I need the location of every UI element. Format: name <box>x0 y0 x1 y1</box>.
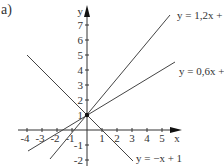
y-axis-label: y <box>78 5 84 17</box>
y-axis-arrow-icon <box>84 5 90 17</box>
x-tick-label: -2 <box>50 132 59 144</box>
y-tick-label: -1 <box>74 139 83 151</box>
x-tick-label: 1 <box>99 132 105 144</box>
line-label-minus-x: y = −x + 1 <box>136 152 182 164</box>
y-tick-label: 5 <box>78 49 84 61</box>
y-tick-label: 4 <box>78 64 84 76</box>
y-tick-label: 7 <box>78 19 84 31</box>
y-tick-label: 2 <box>78 94 84 106</box>
x-tick-label: 4 <box>144 132 150 144</box>
panel-label: a) <box>1 2 12 18</box>
y-tick-label: 3 <box>78 79 84 91</box>
y-tick-label: 6 <box>78 34 84 46</box>
coordinate-plot: -4 -3 -2 -1 1 2 3 4 5 x y 7 6 5 4 3 2 1 … <box>0 0 224 167</box>
x-tick-label: 5 <box>159 132 165 144</box>
x-tick-label: -4 <box>20 132 30 144</box>
line-label-0-6x: y = 0,6x + <box>179 65 224 77</box>
x-tick-label: 2 <box>114 132 120 144</box>
y-tick-label: -2 <box>74 154 83 166</box>
line-label-1-2x: y = 1,2x + <box>177 9 222 21</box>
x-axis-label: x <box>174 132 180 144</box>
x-tick-label: -3 <box>35 132 45 144</box>
intersection-point <box>85 113 89 117</box>
x-tick-label: 3 <box>129 132 135 144</box>
